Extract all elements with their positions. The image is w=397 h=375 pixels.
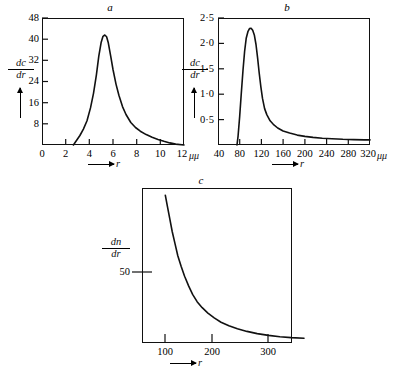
panel-c-xticks xyxy=(165,334,268,343)
panel-c-xtick-100: 100 xyxy=(157,347,173,358)
panel-c-xtick-300: 300 xyxy=(260,347,276,358)
panel-c-xtick-200: 200 xyxy=(204,347,220,358)
panel-c-ylabel-num: dn xyxy=(102,237,130,248)
figure-container: a 48 40 32 24 16 8 xyxy=(0,0,397,375)
panel-c-ylabel-den: dr xyxy=(102,248,130,260)
panel-c-xaxis-arrow xyxy=(170,363,196,364)
panel-c-xlabel: r xyxy=(170,357,202,368)
panel-c-plot xyxy=(0,0,397,375)
panel-c: c 50 100 200 300 dn dr r xyxy=(0,0,397,375)
panel-c-ylabel: dn dr xyxy=(102,237,130,259)
panel-c-curve xyxy=(165,195,304,338)
panel-c-ytick-50: 50 xyxy=(104,267,130,278)
